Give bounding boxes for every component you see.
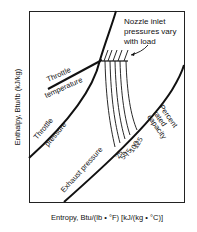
annotation-line1: Nozzle inlet bbox=[124, 17, 166, 26]
y-axis-label: Enthalpy, Btu/lb (kJ/kg) bbox=[13, 68, 22, 145]
x-axis-label: Entropy, Btu/(lb • °F) [kJ/(kg • °C)] bbox=[51, 213, 163, 222]
annotation-line2: pressures vary bbox=[124, 27, 176, 36]
capacity-values: 25 50 75 100 125 bbox=[114, 136, 144, 161]
expansion-lines bbox=[105, 61, 137, 147]
mollier-diagram: Nozzle inlet pressures vary with load Th… bbox=[0, 0, 197, 232]
annotation-line3: with load bbox=[123, 37, 156, 46]
nozzle-hatch bbox=[104, 50, 128, 61]
arrow-head-icon bbox=[131, 52, 135, 56]
